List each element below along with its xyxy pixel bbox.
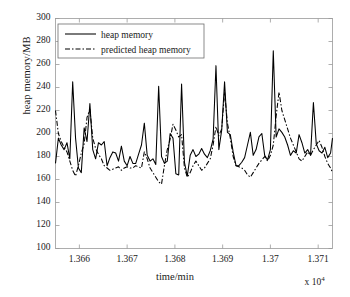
x-tick-label: 1.369 — [198, 254, 248, 264]
figure: heap memorypredicted heap memory heap me… — [0, 0, 350, 297]
legend-label-1: heap memory — [101, 30, 153, 40]
plot-canvas: heap memorypredicted heap memory — [0, 0, 350, 297]
x-tick-label: 1.366 — [54, 254, 104, 264]
y-tick-label: 300 — [13, 12, 51, 22]
y-tick-label: 140 — [13, 196, 51, 206]
x-tick-label: 1.367 — [102, 254, 152, 264]
exponent-power: 4 — [321, 275, 325, 283]
y-tick-label: 220 — [13, 104, 51, 114]
y-tick-label: 120 — [13, 219, 51, 229]
series-line-1 — [56, 51, 333, 176]
data-series-group — [56, 51, 333, 184]
exponent-base: x 10 — [305, 277, 322, 287]
y-tick-label: 240 — [13, 81, 51, 91]
x-axis-label: time/min — [0, 271, 350, 282]
x-tick-label: 1.368 — [150, 254, 200, 264]
y-tick-label: 160 — [13, 173, 51, 183]
y-axis-label: heap memory/MB — [21, 6, 32, 146]
x-tick-label: 1.371 — [293, 254, 343, 264]
legend-label-2: predicted heap memory — [101, 45, 191, 55]
y-tick-label: 280 — [13, 35, 51, 45]
y-tick-label: 180 — [13, 150, 51, 160]
series-line-2 — [56, 92, 333, 184]
y-tick-label: 260 — [13, 58, 51, 68]
legend-box: heap memorypredicted heap memory — [58, 24, 204, 58]
y-tick-label: 100 — [13, 242, 51, 252]
x-tick-label: 1.37 — [245, 254, 295, 264]
x-axis-exponent: x 104 — [305, 275, 325, 287]
y-tick-label: 200 — [13, 127, 51, 137]
